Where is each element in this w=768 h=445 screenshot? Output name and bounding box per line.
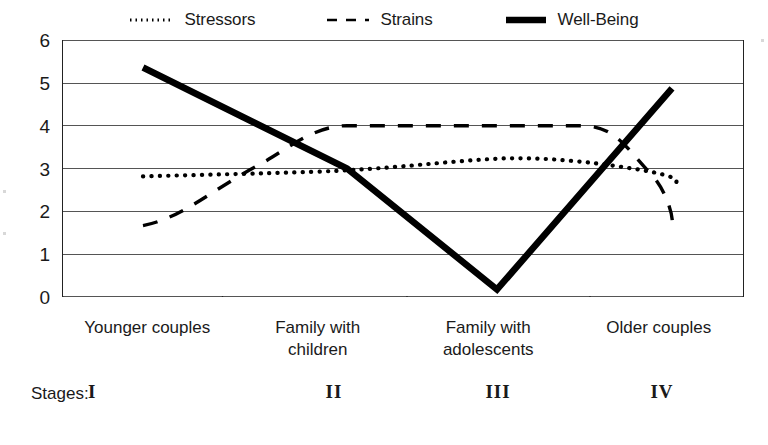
category-label-line-1: Younger couples: [62, 317, 233, 339]
legend-item-well-being: Well-Being: [503, 10, 639, 30]
y-tick-label-4: 4: [10, 117, 50, 136]
stage-value-ii: II: [252, 381, 416, 403]
scan-artifact: [3, 190, 6, 193]
plot-area: [62, 40, 744, 297]
y-tick-label-3: 3: [10, 160, 50, 179]
y-tick-label-0: 0: [10, 288, 50, 307]
plot-svg: [62, 40, 744, 297]
y-tick-label-1: 1: [10, 245, 50, 264]
legend-item-stressors: Stressors: [129, 10, 255, 30]
legend-label-well-being: Well-Being: [558, 10, 639, 30]
category-label-older-couples: Older couples: [574, 313, 745, 375]
stage-value-iv: IV: [580, 381, 744, 403]
dotted-line-swatch: [129, 14, 175, 26]
category-label-line-1: Family with: [233, 317, 404, 339]
category-label-line-2: children: [233, 339, 404, 361]
y-tick-label-6: 6: [10, 31, 50, 50]
stage-values: I II III IV: [62, 381, 744, 403]
stage-value-i: I: [62, 381, 252, 403]
category-label-younger-couples: Younger couples: [62, 313, 233, 375]
series-line-well-being: [143, 68, 672, 290]
stage-value-iii: III: [416, 381, 580, 403]
category-label-family-with-adolescents: Family with adolescents: [403, 313, 574, 375]
legend-label-strains: Strains: [380, 10, 432, 30]
scan-artifact: [3, 232, 6, 235]
x-axis-category-labels: Younger couples Family with children Fam…: [62, 313, 744, 375]
chart-figure: Stressors Strains Well-Being 6 5 4 3 2 1: [0, 0, 768, 445]
y-axis-labels: 6 5 4 3 2 1 0: [0, 0, 62, 340]
category-label-line-2: adolescents: [403, 339, 574, 361]
legend-item-strains: Strains: [325, 10, 432, 30]
chart-legend: Stressors Strains Well-Being: [0, 6, 768, 34]
y-tick-label-2: 2: [10, 202, 50, 221]
category-label-line-1: Older couples: [574, 317, 745, 339]
legend-label-stressors: Stressors: [184, 10, 255, 30]
dashed-line-swatch: [325, 14, 371, 26]
stages-row: Stages: I II III IV: [0, 381, 768, 415]
category-label-line-1: Family with: [403, 317, 574, 339]
y-tick-label-5: 5: [10, 74, 50, 93]
category-label-family-with-children: Family with children: [233, 313, 404, 375]
scan-artifact: [761, 39, 764, 42]
solid-thick-line-swatch: [503, 14, 549, 26]
